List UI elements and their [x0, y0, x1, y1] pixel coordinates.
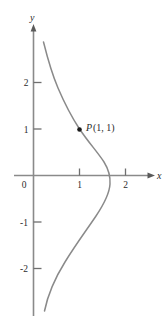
- y-axis-arrow-icon: [31, 24, 37, 32]
- y-tick-label-1: 1: [24, 125, 29, 135]
- x-axis-arrow-icon: [148, 173, 156, 179]
- graph-figure: y x 0 1 2 2 1 -1 -2 P (1, 1): [0, 0, 167, 324]
- y-tick-label-neg1: -1: [20, 218, 28, 228]
- point-marker-P: [77, 127, 82, 132]
- y-tick-label-2: 2: [24, 78, 29, 88]
- y-tick-label-neg2: -2: [20, 264, 28, 274]
- point-label-coordinates: (1, 1): [93, 122, 115, 134]
- x-axis-label: x: [156, 170, 162, 181]
- x-tick-label-2: 2: [123, 180, 128, 190]
- point-label-P: P: [85, 122, 92, 133]
- origin-label: 0: [22, 180, 27, 190]
- plot-svg: y x 0 1 2 2 1 -1 -2 P (1, 1): [0, 0, 167, 324]
- y-axis-label: y: [29, 12, 35, 23]
- curve-path: [44, 42, 111, 311]
- x-tick-label-1: 1: [77, 180, 82, 190]
